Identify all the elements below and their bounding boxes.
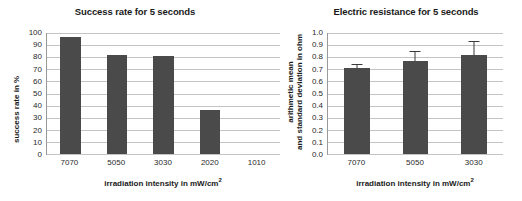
y-axis-tick-label: 80: [33, 53, 42, 61]
y-axis-tick-label: 0.4: [312, 102, 323, 110]
figure-panel: Success rate for 5 seconds 0102030405060…: [0, 0, 522, 201]
bar: [200, 110, 221, 154]
bar-slot: [187, 33, 234, 154]
bar: [403, 61, 429, 154]
y-axis-title: arithmetic mean and standard deviation i…: [286, 34, 304, 150]
y-axis-title-line2: and standard deviation in ohm: [295, 34, 304, 150]
y-axis-tick-label: 90: [33, 41, 42, 49]
chart-electric-resistance: Electric resistance for 5 seconds 0.00.1…: [282, 0, 522, 201]
y-axis-tick-label: 10: [33, 139, 42, 147]
y-axis-tick-label: 0.5: [312, 90, 323, 98]
x-axis-tick-label: 3030: [444, 158, 503, 167]
bar-slot: [328, 33, 386, 154]
y-axis-tick-label: 0.6: [312, 78, 323, 86]
x-axis-title-exponent: 2: [218, 177, 221, 183]
x-axis-title-exponent: 2: [470, 177, 473, 183]
y-axis-tick-label: 30: [33, 114, 42, 122]
y-axis-tick-label: 0.1: [312, 139, 323, 147]
bar-slot: [445, 33, 503, 154]
x-axis-tick-label: 5050: [93, 158, 140, 167]
bar-slot: [140, 33, 187, 154]
x-axis-tick-label: 1010: [233, 158, 280, 167]
chart-success-rate: Success rate for 5 seconds 0102030405060…: [0, 0, 282, 201]
x-axis-tick-label: 3030: [140, 158, 187, 167]
error-bar-cap: [352, 64, 363, 65]
x-axis-tick-labels: 70705050303020201010: [46, 158, 280, 167]
y-axis-tick-label: 60: [33, 78, 42, 86]
chart-title: Electric resistance for 5 seconds: [290, 6, 522, 17]
y-axis-tick-label: 0.3: [312, 114, 323, 122]
x-axis-title-text: irradiation intensity in mW/cm: [356, 179, 470, 188]
bar-slot: [47, 33, 94, 154]
bar: [344, 68, 370, 154]
y-axis-tick-label: 50: [33, 90, 42, 98]
bar-slot: [94, 33, 141, 154]
chart-title: Success rate for 5 seconds: [0, 6, 270, 17]
gridline: [328, 154, 503, 155]
plot-area: [46, 33, 280, 155]
y-axis-title: success rate in %: [12, 76, 21, 143]
y-axis-tick-label: 0.2: [312, 127, 323, 135]
error-bar-stem: [415, 51, 416, 61]
gridline: [47, 154, 280, 155]
x-axis-tick-label: 2020: [186, 158, 233, 167]
error-bar-cap: [468, 41, 479, 42]
y-axis-tick-label: 40: [33, 102, 42, 110]
y-axis-tick-label: 0.0: [312, 151, 323, 159]
y-axis-tick-label: 20: [33, 127, 42, 135]
error-bar-stem: [473, 41, 474, 55]
bar: [461, 55, 487, 154]
y-axis-tick-label: 0: [38, 151, 42, 159]
bar: [153, 56, 174, 154]
y-axis-tick-labels: 0102030405060708090100: [18, 33, 42, 155]
y-axis-title-line1: arithmetic mean: [286, 61, 295, 122]
y-axis-tick-label: 0.9: [312, 41, 323, 49]
x-axis-tick-label: 7070: [327, 158, 386, 167]
bar-series: [47, 33, 280, 154]
error-bar-cap: [410, 51, 421, 52]
x-axis-title: irradiation intensity in mW/cm2: [46, 177, 280, 188]
bar-series: [328, 33, 503, 154]
x-axis-tick-label: 5050: [386, 158, 445, 167]
y-axis-tick-label: 1.0: [312, 29, 323, 37]
y-axis-tick-label: 100: [29, 29, 42, 37]
x-axis-title-text: irradiation intensity in mW/cm: [104, 179, 218, 188]
x-axis-tick-label: 7070: [46, 158, 93, 167]
plot-area: [327, 33, 503, 155]
y-axis-tick-label: 0.7: [312, 66, 323, 74]
bar: [107, 55, 128, 154]
x-axis-tick-labels: 707050503030: [327, 158, 503, 167]
bar: [60, 37, 81, 154]
y-axis-tick-label: 0.8: [312, 53, 323, 61]
bar-slot: [233, 33, 280, 154]
x-axis-title: irradiation intensity in mW/cm2: [315, 177, 515, 188]
y-axis-tick-label: 70: [33, 66, 42, 74]
bar-slot: [386, 33, 444, 154]
